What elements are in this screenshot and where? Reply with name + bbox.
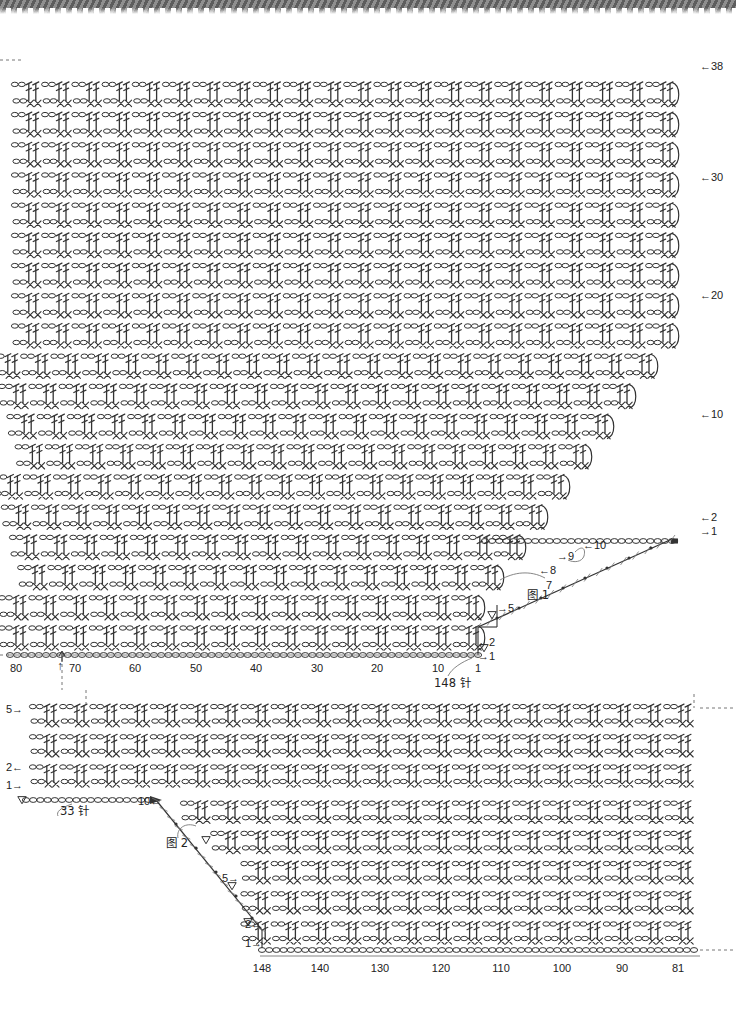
chart-figure-2: 5→ 2← 1→ 33 针 10← 图 2 5→ 2← 1→ 148 140 1… bbox=[0, 690, 736, 990]
chart1-stitchcount-leader bbox=[448, 658, 472, 676]
stair-label-10: ←10 bbox=[583, 540, 606, 551]
chart2-bottom-row-pair-3 bbox=[241, 861, 693, 884]
axis2-tick-148: 148 bbox=[253, 962, 271, 974]
axis1-tick-80: 80 bbox=[10, 662, 22, 674]
axis1-tick-30: 30 bbox=[311, 662, 323, 674]
axis2-tick-130: 130 bbox=[371, 962, 389, 974]
chart2-bottom-row-pair-4 bbox=[211, 831, 694, 854]
chart2-top-row-pair-3 bbox=[29, 704, 693, 727]
axis1-tick-10: 10 bbox=[432, 662, 444, 674]
chart1-row-pair-18 bbox=[11, 112, 678, 137]
axis1-tick-40: 40 bbox=[250, 662, 262, 674]
chart2-stair-label-5: 5→ bbox=[222, 873, 239, 884]
axis1-tick-50: 50 bbox=[190, 662, 202, 674]
chart2-top-row-pair-1 bbox=[29, 765, 693, 788]
stitch-count-148: 148 针 bbox=[434, 678, 471, 690]
axis2-tick-81: 81 bbox=[672, 962, 684, 974]
chart1-row-pair-19 bbox=[11, 82, 678, 107]
chart1-row-pair-9 bbox=[0, 384, 636, 409]
chart1-row-pair-7 bbox=[15, 444, 592, 469]
chart2-turning-triangle-a bbox=[202, 837, 210, 844]
chart1-row-pair-8 bbox=[7, 414, 614, 439]
chart2-chain-count-33: 33 针 bbox=[60, 806, 89, 818]
chart1-row-pair-13 bbox=[11, 263, 678, 288]
chart1-row-pair-16 bbox=[11, 173, 678, 198]
stair-label-2: ←2 bbox=[478, 637, 495, 648]
chart2-row-label-1: 1→ bbox=[6, 780, 23, 791]
chart-figure-1-svg bbox=[0, 0, 736, 690]
row-label-2: ←2 bbox=[700, 512, 717, 523]
chart2-stair-label-10: 10← bbox=[138, 796, 161, 807]
axis2-tick-140: 140 bbox=[311, 962, 329, 974]
figure-2-caption: 图 2 bbox=[166, 838, 188, 850]
chart-figure-1: ←38 ←30 ←20 ←10 ←2 →1 ←10 →9 ←8 7 →5 ←2 … bbox=[0, 0, 736, 690]
chart1-top-chain-run bbox=[481, 539, 678, 544]
chart1-row-pair-10 bbox=[0, 354, 658, 379]
chart1-stitch-field bbox=[0, 82, 679, 650]
stair-label-1: →1 bbox=[478, 651, 495, 662]
axis1-up-marker: ↑ bbox=[57, 659, 63, 673]
chart1-row-pair-17 bbox=[11, 142, 678, 167]
chart2-top-row-pair-2 bbox=[29, 734, 693, 757]
stair-label-5: →5 bbox=[497, 603, 514, 614]
stair-label-9: →9 bbox=[557, 551, 574, 562]
row-label-10: ←10 bbox=[700, 409, 723, 420]
chart2-row-label-2: 2← bbox=[6, 762, 23, 773]
row-label-20: ←20 bbox=[700, 290, 723, 301]
chart1-row-pair-3 bbox=[18, 565, 504, 590]
chart1-row-pair-4 bbox=[9, 535, 525, 560]
chart2-row-label-5: 5→ bbox=[6, 704, 23, 715]
chart2-foundation-chain bbox=[258, 948, 697, 953]
chart1-row-pair-11 bbox=[11, 324, 678, 349]
chart1-turning-triangle-b bbox=[488, 612, 496, 619]
row-label-1: →1 bbox=[700, 526, 717, 537]
row-label-30: ←30 bbox=[700, 172, 723, 183]
row-label-38: ←38 bbox=[700, 61, 723, 72]
chart2-stair-label-2: 2← bbox=[245, 919, 262, 930]
axis1-tick-1: 1 bbox=[475, 662, 481, 674]
chart2-bottom-row-pair-2 bbox=[241, 891, 693, 914]
chart2-bottom-row-pair-1 bbox=[241, 922, 693, 945]
axis1-tick-20: 20 bbox=[371, 662, 383, 674]
axis1-tick-70: 70 bbox=[69, 662, 81, 674]
chart1-row-pair-14 bbox=[11, 233, 678, 258]
chart2-bottom-row-pair-5 bbox=[180, 801, 693, 824]
chart1-row-pair-12 bbox=[11, 293, 678, 318]
chart1-decrease-stairstep bbox=[475, 535, 675, 655]
axis2-tick-90: 90 bbox=[616, 962, 628, 974]
axis2-tick-120: 120 bbox=[432, 962, 450, 974]
figure-1-caption: 图 1 bbox=[527, 590, 549, 602]
axis2-tick-100: 100 bbox=[553, 962, 571, 974]
chart2-stair-label-1: 1→ bbox=[245, 938, 262, 949]
stair-label-8: ←8 bbox=[539, 565, 556, 576]
axis2-tick-110: 110 bbox=[492, 962, 510, 974]
chart1-row-pair-15 bbox=[11, 203, 678, 228]
axis1-tick-60: 60 bbox=[129, 662, 141, 674]
chart2-stitch-field bbox=[29, 704, 693, 944]
chart1-row-pair-1 bbox=[0, 626, 485, 651]
chart1-row-pair-2 bbox=[0, 595, 485, 620]
chart1-row-pair-6 bbox=[0, 475, 570, 500]
chart-figure-2-svg bbox=[0, 690, 736, 990]
chart1-row-pair-5 bbox=[1, 505, 548, 530]
